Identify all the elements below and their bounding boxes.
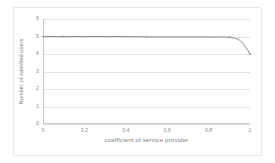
plot-area: 0123456 00,20,40,60,81 [43, 19, 250, 124]
y-axis-tick-label: 1 [36, 104, 39, 109]
data-series-line [43, 19, 250, 124]
x-axis-tick-label: 0,4 [122, 128, 129, 133]
y-axis-tick-label: 2 [36, 86, 39, 91]
x-axis-tick-label: 0,2 [81, 128, 88, 133]
x-axis-tick-label: 0,8 [205, 128, 212, 133]
x-axis-tick-label: 1 [249, 128, 252, 133]
data-point-marker [63, 36, 65, 38]
y-axis-tick-label: 4 [36, 51, 39, 56]
y-axis-tick-label: 5 [36, 34, 39, 39]
chart-figure: 0123456 00,20,40,60,81 coefficient of se… [13, 7, 262, 156]
y-axis-tick-label: 0 [36, 121, 39, 126]
data-point-marker [228, 36, 230, 38]
gridline [43, 124, 250, 125]
y-axis-title: Number of satisfied users [19, 19, 29, 124]
y-axis-tick-label: 3 [36, 69, 39, 74]
data-point-marker [42, 36, 44, 38]
x-axis-tick-label: 0 [42, 128, 45, 133]
data-point-marker [249, 53, 251, 55]
x-axis-title: coefficient of service provider [43, 137, 250, 143]
data-point-marker [146, 36, 148, 38]
x-axis-tick-label: 0,6 [164, 128, 171, 133]
y-axis-tick-label: 6 [36, 16, 39, 21]
